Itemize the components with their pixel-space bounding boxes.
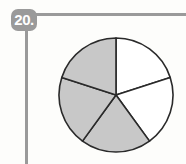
fraction-pie-chart (0, 0, 186, 164)
